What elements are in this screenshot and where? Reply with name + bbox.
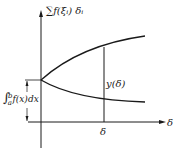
- y-axis-label: ∑f(ξᵢ) δᵢ: [46, 5, 83, 16]
- dimension-arrow-down-icon: [26, 116, 29, 121]
- integral-label: ∫abf(x)dx: [3, 90, 45, 107]
- integrand: f(x)dx: [12, 94, 38, 104]
- upper-sum-curve: [41, 36, 145, 80]
- gap-label: y(δ): [106, 78, 125, 89]
- y-axis-arrow-icon: [39, 10, 43, 17]
- x-axis-arrow-icon: [159, 120, 166, 124]
- x-tick-label: δ: [100, 126, 106, 137]
- diagram-canvas: [0, 0, 176, 148]
- x-axis-label: δ: [167, 117, 173, 128]
- lower-sum-curve: [41, 80, 145, 102]
- dimension-arrow-up-icon: [26, 81, 29, 86]
